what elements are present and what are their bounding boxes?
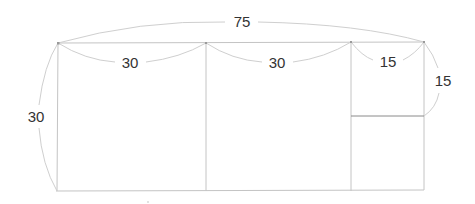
arc-height xyxy=(39,43,58,105)
stray-dot xyxy=(147,201,149,203)
label-total-width: 75 xyxy=(234,13,251,30)
vertex-top-left xyxy=(57,42,60,45)
label-small-side: 15 xyxy=(435,72,452,89)
label-segment-2: 30 xyxy=(269,54,286,71)
arc-total-width xyxy=(58,22,225,43)
dimension-diagram: 75 30 30 15 30 15 xyxy=(0,0,475,204)
arc-total-width-right xyxy=(258,22,424,42)
vertex-top-third xyxy=(350,41,352,43)
arc-segment-2 xyxy=(206,43,262,62)
arc-segment-1-right xyxy=(146,43,206,62)
bottom-edge xyxy=(56,190,424,191)
arc-small-side xyxy=(424,42,438,68)
top-edge xyxy=(58,42,424,43)
arc-segment-2-right xyxy=(293,42,351,62)
label-segment-3: 15 xyxy=(380,53,397,70)
arc-height-bottom xyxy=(39,128,57,191)
arc-segment-1 xyxy=(58,43,115,62)
arc-small-side-bottom xyxy=(424,93,439,116)
label-height: 30 xyxy=(28,108,45,125)
vertex-top-right xyxy=(423,41,425,43)
vertex-top-mid xyxy=(205,42,207,44)
left-edge xyxy=(57,43,58,191)
label-segment-1: 30 xyxy=(122,54,139,71)
arc-segment-3 xyxy=(351,42,373,60)
arc-segment-3-right xyxy=(403,42,424,60)
